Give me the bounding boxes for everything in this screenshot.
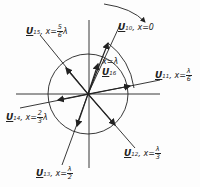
label-u12: U12, x=λ3 [124, 146, 161, 160]
label-u15: U15, x=56λ [26, 24, 68, 38]
phasor-diagram: U10, x=0 U11, x=λ6 U12, x=λ3 U13, x=λ2 U… [0, 0, 200, 187]
label-u13: U13, x=λ2 [36, 166, 73, 180]
label-u16: x=λ U16 [102, 58, 118, 77]
label-u10: U10, x=0 [118, 23, 154, 32]
label-u14: U14, x=23λ [6, 110, 48, 124]
rotation-arrow [104, 4, 145, 22]
label-u11: U11, x=λ6 [155, 68, 192, 82]
